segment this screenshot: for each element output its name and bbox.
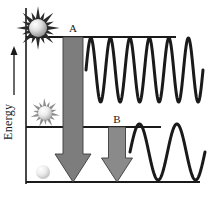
high-frequency-wave — [86, 38, 203, 102]
atom-sphere-icon — [38, 106, 52, 120]
low-frequency-wave — [130, 124, 205, 180]
transition-arrow-a — [55, 37, 91, 182]
energy-axis-label: Energy — [1, 104, 15, 140]
excited-atom-low-icon — [31, 98, 60, 127]
energy-level-diagram: Energy A B — [0, 0, 208, 200]
energy-axis: Energy — [1, 8, 26, 184]
atom-sphere-icon — [29, 19, 47, 37]
transition-arrow-b — [102, 127, 133, 182]
transition-label-b: B — [113, 113, 120, 125]
diagram-canvas: Energy A B — [0, 0, 208, 200]
transition-label-a: A — [69, 22, 77, 34]
atom-icons — [16, 6, 59, 179]
excited-atom-high-icon — [16, 6, 59, 49]
energy-axis-arrow-icon — [11, 46, 18, 95]
atom-sphere-icon — [36, 165, 50, 179]
ground-state-atom-icon — [36, 165, 50, 179]
